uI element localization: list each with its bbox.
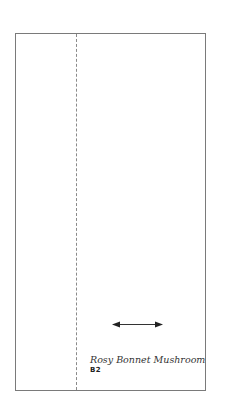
double-arrow-icon	[112, 320, 163, 329]
card-panel: Rosy Bonnet Mushroom B2	[15, 33, 206, 391]
fold-line-dashed	[76, 34, 77, 390]
caption: Rosy Bonnet Mushroom B2	[90, 354, 205, 374]
card-code: B2	[90, 366, 205, 374]
card-title: Rosy Bonnet Mushroom	[90, 354, 205, 365]
